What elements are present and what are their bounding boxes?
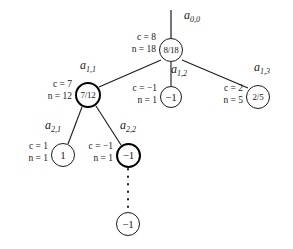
node-a21-stats: c = 1 n = 1 xyxy=(3,141,48,164)
node-a13-n: n = 5 xyxy=(198,95,243,107)
node-a22-stats: c = −1 n = 1 xyxy=(66,141,113,164)
node-a21-name: a2,1 xyxy=(45,118,61,133)
edge-a11-a22 xyxy=(96,106,121,145)
node-root-n: n = 18 xyxy=(108,44,156,56)
node-a22-n: n = 1 xyxy=(66,153,113,165)
node-root-name: a0,0 xyxy=(184,8,200,23)
node-a12-name: a1,2 xyxy=(171,62,187,77)
node-a22-c: c = −1 xyxy=(66,141,113,153)
node-a21-n: n = 1 xyxy=(3,153,48,165)
node-root-value: 8/18 xyxy=(163,46,178,55)
tree-diagram: 8/18 a0,0 c = 8 n = 18 7/12 a1,1 c = 7 n… xyxy=(0,0,293,249)
node-a13-c: c = 2 xyxy=(198,83,243,95)
node-a21-c: c = 1 xyxy=(3,141,48,153)
node-root-stats: c = 8 n = 18 xyxy=(108,32,156,55)
node-leaf-value: −1 xyxy=(122,219,133,230)
node-a11-c: c = 7 xyxy=(24,79,72,91)
node-a11[interactable]: 7/12 xyxy=(75,82,101,108)
node-a12-value: −1 xyxy=(165,92,176,103)
node-a11-name: a1,1 xyxy=(80,58,96,73)
node-a22-name: a2,2 xyxy=(120,118,136,133)
node-a13-stats: c = 2 n = 5 xyxy=(198,83,243,106)
node-a13-name: a1,3 xyxy=(254,60,270,75)
node-a12-n: n = 1 xyxy=(110,95,157,107)
node-a11-n: n = 12 xyxy=(24,91,72,103)
node-a12[interactable]: −1 xyxy=(160,86,182,108)
node-a21-value: 1 xyxy=(60,150,65,161)
node-root-c: c = 8 xyxy=(108,32,156,44)
node-a12-stats: c = −1 n = 1 xyxy=(110,83,157,106)
node-a11-stats: c = 7 n = 12 xyxy=(24,79,72,102)
node-leaf[interactable]: −1 xyxy=(116,212,140,236)
node-a13[interactable]: 2/5 xyxy=(246,85,270,109)
node-a22-value: −1 xyxy=(123,150,134,161)
node-root[interactable]: 8/18 xyxy=(159,38,183,62)
node-a13-value: 2/5 xyxy=(253,93,264,102)
edge-a11-a21 xyxy=(68,107,82,144)
node-a11-value: 7/12 xyxy=(80,91,95,100)
node-a22[interactable]: −1 xyxy=(116,143,141,168)
node-a12-c: c = −1 xyxy=(110,83,157,95)
